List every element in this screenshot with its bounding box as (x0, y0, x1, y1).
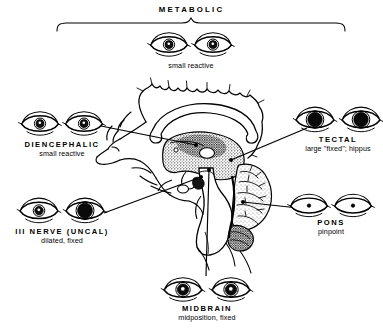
pupil-highlight (167, 42, 170, 45)
label-title-pons: PONS (140, 219, 383, 228)
label-metabolic: small reactive (0, 62, 383, 70)
label-tectal: TECTALlarge "fixed"; hippus (147, 136, 383, 153)
label-midbrain: MIDBRAINmidposition, fixed (16, 305, 383, 322)
label-detail-midbrain: midposition, fixed (16, 314, 383, 322)
label-detail-third-nerve-uncal: dilated, fixed (0, 237, 254, 245)
pupil (307, 204, 310, 207)
pupil (308, 112, 322, 126)
pupil-highlight (82, 121, 85, 124)
pituitary-gland (178, 185, 189, 193)
pupil-highlight (37, 208, 40, 211)
pupil-highlight (181, 287, 185, 291)
pupil-highlight (38, 121, 41, 124)
pupil (351, 204, 354, 207)
pupil (354, 112, 368, 126)
bracket-title: METABOLIC (0, 5, 383, 14)
pupil-highlight (211, 42, 214, 45)
pupil-highlight (229, 287, 233, 291)
label-pons: PONSpinpoint (140, 219, 383, 236)
label-detail-metabolic: small reactive (0, 62, 383, 70)
pupillary-response-diagram (0, 0, 383, 332)
pupil (78, 203, 93, 218)
label-detail-tectal: large "fixed"; hippus (147, 145, 383, 153)
label-detail-pons: pinpoint (140, 228, 383, 236)
